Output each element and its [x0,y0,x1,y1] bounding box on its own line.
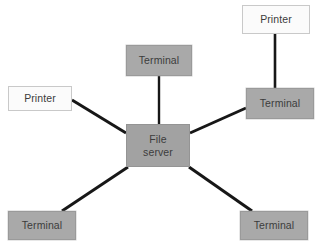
connection-line-terminal-right-to-server [190,108,246,133]
network-diagram: Printer Terminal Terminal Printer File s… [0,0,318,244]
node-label: Terminal [139,54,179,66]
connection-line-terminal-bottom-left-to-server [62,167,128,211]
node-label: Terminal [22,219,62,231]
node-label: Printer [24,92,56,104]
connection-lines-layer [0,0,318,244]
node-terminal-top-center: Terminal [126,45,192,76]
connection-line-terminal-bottom-right-to-server [189,167,252,211]
node-printer-left: Printer [8,86,72,111]
node-printer-top-right: Printer [242,5,310,34]
node-label: File server [143,133,173,158]
node-label: Printer [260,13,292,25]
node-label: Terminal [254,219,294,231]
node-file-server: File server [126,124,190,167]
node-terminal-bottom-right: Terminal [240,211,308,240]
node-terminal-right: Terminal [246,88,314,119]
node-terminal-bottom-left: Terminal [8,211,76,240]
connection-line-printer-left-to-server [72,100,126,133]
node-label: Terminal [260,97,300,109]
